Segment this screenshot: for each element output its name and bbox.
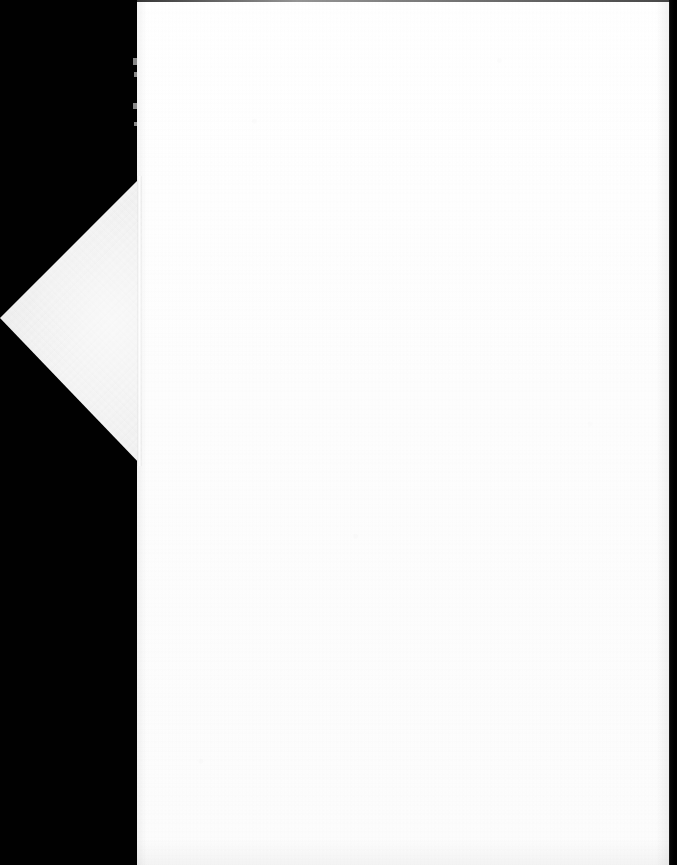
page-edge-notch (133, 58, 137, 65)
right-dark-strip (669, 0, 677, 865)
page-edge-notch (133, 103, 137, 109)
scanned-document-image (0, 0, 677, 865)
blank-scanned-page (137, 0, 670, 865)
fold-crease-line (137, 176, 142, 466)
paper-grain-texture (137, 0, 670, 865)
page-edge-notch (134, 72, 137, 77)
page-edge-notch (134, 122, 137, 126)
page-right-edge-shading (656, 0, 670, 865)
page-top-edge-line (137, 0, 670, 2)
page-bottom-edge-shading (137, 839, 670, 865)
